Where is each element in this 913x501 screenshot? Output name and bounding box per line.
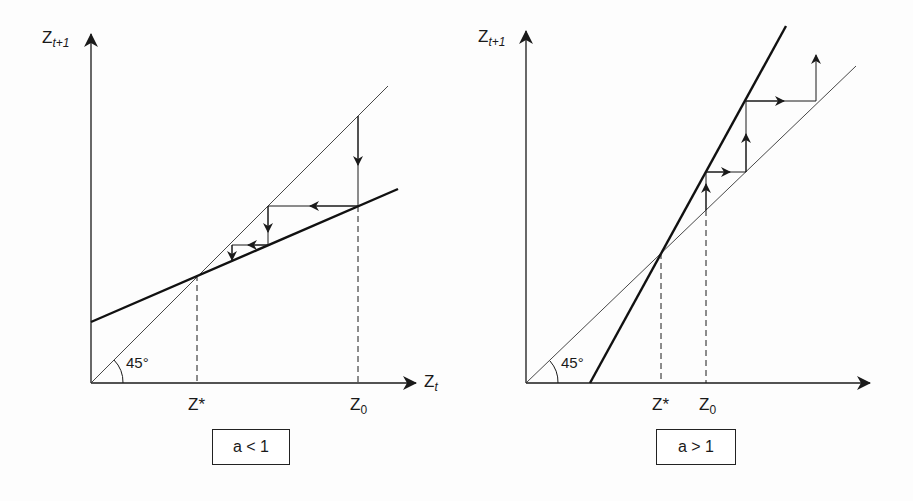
angle-arc — [114, 360, 123, 383]
y-axis-label: Zt+1 — [42, 28, 69, 50]
angle-arc — [550, 361, 558, 383]
angle-label: 45° — [126, 354, 149, 371]
cobweb-path — [706, 55, 816, 210]
y-axis-label: Zt+1 — [478, 27, 505, 49]
cobweb-path — [232, 116, 358, 262]
x-axis-label: Zt — [424, 372, 438, 394]
z-star-label: Z* — [188, 395, 205, 415]
z-star-label: Z* — [652, 395, 669, 415]
condition-label: a < 1 — [212, 429, 290, 465]
45-degree-line — [526, 66, 856, 383]
transition-line — [590, 26, 786, 383]
transition-line — [91, 189, 398, 322]
z0-label: Z0 — [699, 395, 716, 417]
left-panel — [91, 34, 416, 383]
phase-diagrams — [0, 0, 913, 501]
45-degree-line — [91, 86, 388, 383]
right-panel — [526, 26, 870, 383]
angle-label: 45° — [561, 354, 584, 371]
condition-label: a > 1 — [656, 429, 736, 465]
z0-label: Z0 — [350, 395, 367, 417]
